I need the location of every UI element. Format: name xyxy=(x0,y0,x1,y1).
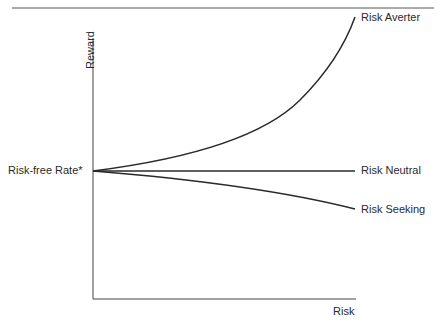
x-axis-label: Risk xyxy=(333,305,354,317)
risk-averter-label: Risk Averter xyxy=(361,11,420,23)
risk-seeking-label: Risk Seeking xyxy=(361,203,425,215)
risk-neutral-label: Risk Neutral xyxy=(361,164,421,176)
y-axis-label: Reward xyxy=(84,30,96,70)
risk-reward-diagram xyxy=(0,0,442,324)
risk-averter-curve xyxy=(93,17,355,171)
risk-seeking-curve xyxy=(93,171,355,209)
origin-label: Risk-free Rate* xyxy=(8,164,83,176)
